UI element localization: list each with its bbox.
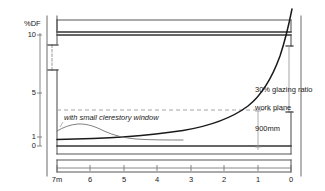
daylight-factor-section-diagram: %DF 10 5 1 0 7m 6 5 4 3 2 1 0 30% glazin… bbox=[0, 0, 325, 191]
annotation-glazing-ratio: 30% glazing ratio bbox=[255, 86, 313, 94]
y-tick-label-10: 10 bbox=[20, 31, 36, 39]
y-tick-label-1: 1 bbox=[20, 133, 36, 141]
annotation-900mm: 900mm bbox=[255, 125, 280, 133]
x-tick-label-6: 6 bbox=[82, 176, 98, 184]
x-tick-label-5: 5 bbox=[116, 176, 132, 184]
room-section-structure bbox=[47, 16, 301, 176]
x-tick-label-7m: 7m bbox=[49, 176, 65, 184]
y-tick-label-0: 0 bbox=[20, 142, 36, 150]
x-tick-label-2: 2 bbox=[216, 176, 232, 184]
x-tick-label-3: 3 bbox=[183, 176, 199, 184]
x-tick-label-4: 4 bbox=[149, 176, 165, 184]
clerestory-label-leader bbox=[60, 122, 63, 127]
annotation-work-plane: work plane bbox=[255, 104, 291, 112]
x-tick-label-0: 0 bbox=[283, 176, 299, 184]
diagram-canvas bbox=[0, 0, 325, 191]
annotation-clerestory-window: with small clerestory window bbox=[64, 114, 159, 122]
y-tick-label-5: 5 bbox=[20, 89, 36, 97]
y-axis-ticks bbox=[37, 35, 42, 146]
x-tick-label-1: 1 bbox=[250, 176, 266, 184]
y-axis-title: %DF bbox=[24, 20, 41, 28]
